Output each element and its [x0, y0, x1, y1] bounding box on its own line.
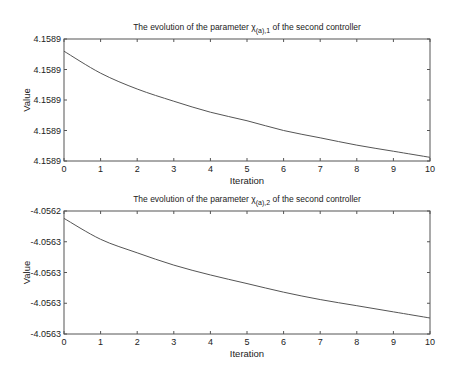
y-tick-label: -4.0563	[30, 298, 61, 308]
data-line	[64, 218, 430, 318]
y-tick-label: -4.0563	[30, 329, 61, 339]
x-tick-label: 7	[318, 337, 323, 347]
plot-panel-2: The evolution of the parameter χ(a),2 of…	[0, 0, 452, 374]
axes-box	[64, 211, 430, 334]
x-tick-label: 3	[171, 337, 176, 347]
x-tick-label: 8	[354, 337, 359, 347]
x-tick-label: 4	[208, 337, 213, 347]
y-tick-label: -4.0563	[30, 237, 61, 247]
x-tick-label: 6	[281, 337, 286, 347]
y-axis-label: Value	[21, 261, 32, 285]
x-tick-label: 9	[391, 337, 396, 347]
plot-area-2: 012345678910-4.0562-4.0563-4.0563-4.0563…	[0, 0, 452, 374]
x-tick-label: 5	[244, 337, 249, 347]
x-tick-label: 10	[425, 337, 435, 347]
x-tick-label: 0	[61, 337, 66, 347]
x-axis-label: Iteration	[230, 348, 264, 359]
y-tick-label: -4.0563	[30, 268, 61, 278]
x-tick-label: 1	[98, 337, 103, 347]
x-tick-label: 2	[135, 337, 140, 347]
y-tick-label: -4.0562	[30, 206, 61, 216]
